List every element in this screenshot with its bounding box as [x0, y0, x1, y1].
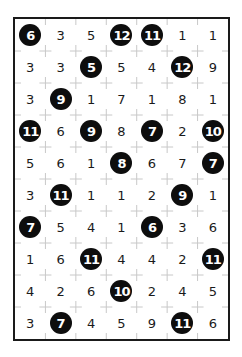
grid-cell[interactable]: 6: [137, 147, 167, 179]
shaded-number: 11: [141, 24, 163, 46]
cell-number: 9: [209, 61, 217, 74]
cell-number: 4: [178, 285, 186, 298]
grid-cell[interactable]: 5: [106, 307, 136, 339]
grid-cell[interactable]: 6: [45, 115, 75, 147]
grid-cell[interactable]: 6: [76, 275, 106, 307]
cell-number: 2: [148, 285, 156, 298]
grid-cell[interactable]: 11: [45, 179, 75, 211]
grid-cell[interactable]: 7: [167, 147, 197, 179]
shaded-number: 6: [141, 216, 163, 238]
grid-cell[interactable]: 10: [198, 115, 228, 147]
grid-cell[interactable]: 2: [45, 275, 75, 307]
cell-number: 3: [26, 93, 34, 106]
grid-cell[interactable]: 9: [167, 179, 197, 211]
cell-number: 3: [56, 29, 64, 42]
grid-cell[interactable]: 5: [15, 147, 45, 179]
grid-cell[interactable]: 4: [137, 243, 167, 275]
shaded-number: 10: [110, 280, 132, 302]
cell-number: 1: [209, 29, 217, 42]
cell-number: 2: [148, 189, 156, 202]
grid-cell[interactable]: 8: [106, 147, 136, 179]
cell-number: 1: [26, 253, 34, 266]
grid-cell[interactable]: 5: [198, 275, 228, 307]
grid-cell[interactable]: 3: [167, 211, 197, 243]
cell-number: 1: [87, 157, 95, 170]
grid-cell[interactable]: 11: [167, 307, 197, 339]
grid-cell[interactable]: 12: [167, 51, 197, 83]
cell-number: 3: [178, 221, 186, 234]
grid-cell[interactable]: 2: [167, 243, 197, 275]
grid-cell[interactable]: 1: [76, 83, 106, 115]
grid-cell[interactable]: 3: [15, 51, 45, 83]
grid-cell[interactable]: 6: [198, 211, 228, 243]
cell-number: 4: [148, 253, 156, 266]
grid-cell[interactable]: 6: [137, 211, 167, 243]
cell-number: 6: [148, 157, 156, 170]
grid-cell[interactable]: 4: [15, 275, 45, 307]
grid-cell[interactable]: 7: [137, 115, 167, 147]
grid-cell[interactable]: 1: [137, 83, 167, 115]
shaded-number: 5: [80, 56, 102, 78]
grid-cell[interactable]: 5: [76, 51, 106, 83]
grid-cell[interactable]: 6: [45, 243, 75, 275]
cell-number: 3: [26, 189, 34, 202]
grid-cell[interactable]: 3: [15, 83, 45, 115]
grid-cell[interactable]: 7: [198, 147, 228, 179]
grid-cell[interactable]: 8: [106, 115, 136, 147]
shaded-number: 12: [171, 56, 193, 78]
grid-cell[interactable]: 4: [76, 211, 106, 243]
grid-cell[interactable]: 5: [106, 51, 136, 83]
grid-cell[interactable]: 3: [15, 307, 45, 339]
grid-cell[interactable]: 11: [198, 243, 228, 275]
grid-cell[interactable]: 6: [198, 307, 228, 339]
grid-cell[interactable]: 1: [198, 19, 228, 51]
grid-cell[interactable]: 9: [76, 115, 106, 147]
cell-number: 1: [148, 93, 156, 106]
grid-cell[interactable]: 11: [15, 115, 45, 147]
grid-cell[interactable]: 10: [106, 275, 136, 307]
grid-cell[interactable]: 3: [45, 51, 75, 83]
grid-cell[interactable]: 6: [15, 19, 45, 51]
grid-cell[interactable]: 7: [106, 83, 136, 115]
shaded-number: 7: [141, 120, 163, 142]
grid-cell[interactable]: 1: [76, 179, 106, 211]
grid-cell[interactable]: 1: [15, 243, 45, 275]
grid-cell[interactable]: 9: [137, 307, 167, 339]
cell-number: 5: [209, 285, 217, 298]
grid-cell[interactable]: 1: [198, 83, 228, 115]
grid-cell[interactable]: 11: [76, 243, 106, 275]
grid-cell[interactable]: 4: [106, 243, 136, 275]
grid-cell[interactable]: 12: [106, 19, 136, 51]
shaded-number: 7: [50, 312, 72, 334]
grid-cell[interactable]: 9: [45, 83, 75, 115]
grid-cell[interactable]: 9: [198, 51, 228, 83]
cell-number: 4: [26, 285, 34, 298]
grid-cell[interactable]: 1: [76, 147, 106, 179]
grid-cell[interactable]: 4: [137, 51, 167, 83]
grid-cell[interactable]: 1: [167, 19, 197, 51]
grid-cell[interactable]: 3: [45, 19, 75, 51]
grid-cell[interactable]: 7: [15, 211, 45, 243]
cell-number: 1: [117, 221, 125, 234]
grid-cell[interactable]: 4: [167, 275, 197, 307]
grid-cell[interactable]: 6: [45, 147, 75, 179]
grid-cell[interactable]: 8: [167, 83, 197, 115]
grid-cell[interactable]: 2: [137, 275, 167, 307]
cell-number: 5: [117, 317, 125, 330]
grid-cell[interactable]: 2: [137, 179, 167, 211]
grid-cell[interactable]: 5: [76, 19, 106, 51]
grid-cell[interactable]: 5: [45, 211, 75, 243]
grid-cell[interactable]: 4: [76, 307, 106, 339]
grid-cell[interactable]: 1: [198, 179, 228, 211]
grid-cell[interactable]: 11: [137, 19, 167, 51]
grid-cell[interactable]: 2: [167, 115, 197, 147]
puzzle-board: 6351211113355412939171811169872105618677…: [13, 17, 230, 341]
grid-cell[interactable]: 3: [15, 179, 45, 211]
grid-cell[interactable]: 7: [45, 307, 75, 339]
grid-cell[interactable]: 1: [106, 211, 136, 243]
grid-cell[interactable]: 1: [106, 179, 136, 211]
cell-number: 1: [87, 189, 95, 202]
cell-number: 1: [117, 189, 125, 202]
puzzle-grid: 6351211113355412939171811169872105618677…: [15, 19, 228, 339]
shaded-number: 8: [110, 152, 132, 174]
